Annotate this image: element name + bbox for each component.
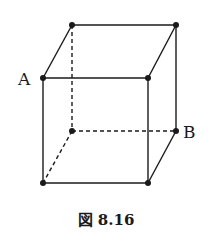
edge <box>148 131 176 183</box>
vertex <box>69 128 75 134</box>
figure-caption: 図 8.16 <box>78 211 135 229</box>
hidden-edge <box>43 131 72 183</box>
vertex <box>40 180 46 186</box>
label-a: A <box>17 69 31 89</box>
edge <box>43 25 72 78</box>
vertex-a <box>40 75 46 81</box>
vertex <box>145 180 151 186</box>
edge <box>148 25 176 78</box>
vertex <box>145 75 151 81</box>
vertex <box>173 22 179 28</box>
vertex <box>69 22 75 28</box>
label-b: B <box>183 122 196 142</box>
vertex-b <box>173 128 179 134</box>
cube-diagram: A B 図 8.16 <box>0 0 213 234</box>
